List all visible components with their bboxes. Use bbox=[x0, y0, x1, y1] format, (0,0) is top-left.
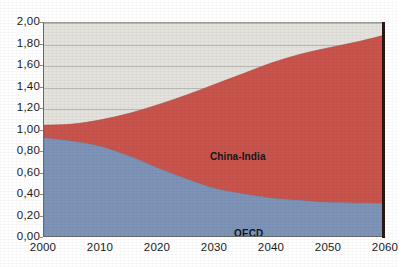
y-tick-label: 1,00 bbox=[2, 124, 40, 135]
y-tick-label: 0,80 bbox=[2, 145, 40, 156]
x-tick-label: 2040 bbox=[248, 241, 294, 253]
right-axis-rule bbox=[382, 22, 385, 238]
y-tick-label: 1,60 bbox=[2, 59, 40, 70]
series-label-oecd: OECD bbox=[234, 228, 263, 237]
x-tick-label: 2010 bbox=[77, 241, 123, 253]
y-tick-label: 1,40 bbox=[2, 81, 40, 92]
x-tick-label: 2050 bbox=[305, 241, 351, 253]
stacked-area-series bbox=[44, 23, 385, 237]
series-label-china-india: China-India bbox=[210, 151, 266, 162]
y-tick-mark bbox=[38, 237, 43, 238]
x-tick-label: 2060 bbox=[362, 241, 403, 253]
y-tick-label: 1,80 bbox=[2, 38, 40, 49]
x-tick-label: 2000 bbox=[20, 241, 66, 253]
x-tick-label: 2030 bbox=[191, 241, 237, 253]
y-tick-label: 1,20 bbox=[2, 102, 40, 113]
y-axis: 0,000,200,400,600,801,001,201,401,601,80… bbox=[0, 22, 40, 237]
y-tick-label: 0,20 bbox=[2, 210, 40, 221]
x-tick-label: 2020 bbox=[134, 241, 180, 253]
y-tick-label: 0,60 bbox=[2, 167, 40, 178]
y-tick-label: 2,00 bbox=[2, 16, 40, 27]
x-axis: 2000201020202030204020502060 bbox=[43, 241, 385, 261]
plot-area: China-India OECD bbox=[43, 22, 385, 237]
y-tick-label: 0,40 bbox=[2, 188, 40, 199]
